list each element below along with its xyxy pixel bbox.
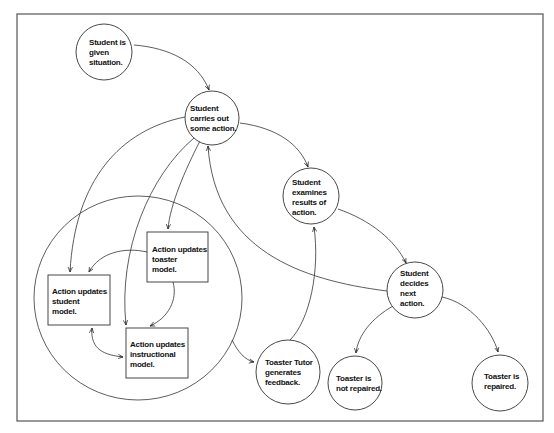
edge-examines-to-decides — [338, 209, 406, 263]
node-label-student-model: Action updatesstudentmodel. — [52, 287, 107, 317]
node-label-decides: Studentdecidesnextaction. — [400, 269, 428, 309]
edge-toaster-model-to-student-model — [89, 250, 147, 272]
node-label-line: model. — [130, 360, 185, 370]
node-label-line: Toaster is — [336, 374, 382, 384]
edge-action-to-examines — [240, 123, 308, 167]
node-label-line: Student is — [89, 38, 126, 48]
node-label-line: results of — [292, 198, 327, 208]
node-label-given: Student isgivensituation. — [89, 38, 126, 68]
node-label-line: model. — [52, 307, 107, 317]
node-label-toaster-model: Action updatestoastermodel. — [152, 245, 207, 275]
node-label-line: student — [52, 297, 107, 307]
node-label-line: examines — [292, 188, 327, 198]
node-label-line: Student — [190, 104, 237, 114]
node-label-line: decides — [400, 279, 428, 289]
node-label-action: Studentcarries outsome action. — [190, 104, 237, 134]
node-label-line: feedback. — [265, 378, 313, 388]
node-label-examines: Studentexaminesresults ofaction. — [292, 178, 327, 218]
node-label-line: model. — [152, 265, 207, 275]
node-label-line: Toaster is — [484, 372, 519, 382]
node-label-line: Student — [292, 178, 327, 188]
nodes-group — [48, 24, 528, 411]
node-label-line: Action updates — [52, 287, 107, 297]
edge-action-to-instructional-model — [125, 138, 194, 325]
edge-feedback-to-examines — [290, 227, 316, 340]
edge-student-model-to-instructional-model — [92, 328, 123, 357]
edge-action-to-toaster-model — [168, 141, 200, 229]
node-label-line: Action updates — [152, 245, 207, 255]
edge-decides-to-not-repaired — [356, 306, 393, 353]
node-label-line: Action updates — [130, 340, 185, 350]
node-label-line: repaired. — [484, 382, 519, 392]
node-label-line: Student — [400, 269, 428, 279]
edge-given-to-action — [134, 45, 209, 90]
node-label-instructional-model: Action updatesinstructionalmodel. — [130, 340, 185, 370]
node-label-line: not repaired. — [336, 384, 382, 394]
edge-decides-to-repaired — [442, 297, 498, 352]
node-label-line: action. — [400, 299, 428, 309]
node-label-line: situation. — [89, 58, 126, 68]
node-label-line: next — [400, 289, 428, 299]
node-label-line: carries out — [190, 114, 237, 124]
edge-toaster-model-to-instructional-model — [150, 282, 174, 326]
node-label-line: action. — [292, 208, 327, 218]
edge-container-to-feedback — [232, 340, 254, 362]
node-label-line: toaster — [152, 255, 207, 265]
node-label-line: instructional — [130, 350, 185, 360]
node-label-feedback: Toaster Tutorgeneratesfeedback. — [265, 358, 313, 388]
node-label-line: some action. — [190, 124, 237, 134]
node-label-not-repaired: Toaster isnot repaired. — [336, 374, 382, 394]
node-label-line: generates — [265, 368, 313, 378]
node-label-line: given — [89, 48, 126, 58]
node-label-repaired: Toaster isrepaired. — [484, 372, 519, 392]
node-label-line: Toaster Tutor — [265, 358, 313, 368]
